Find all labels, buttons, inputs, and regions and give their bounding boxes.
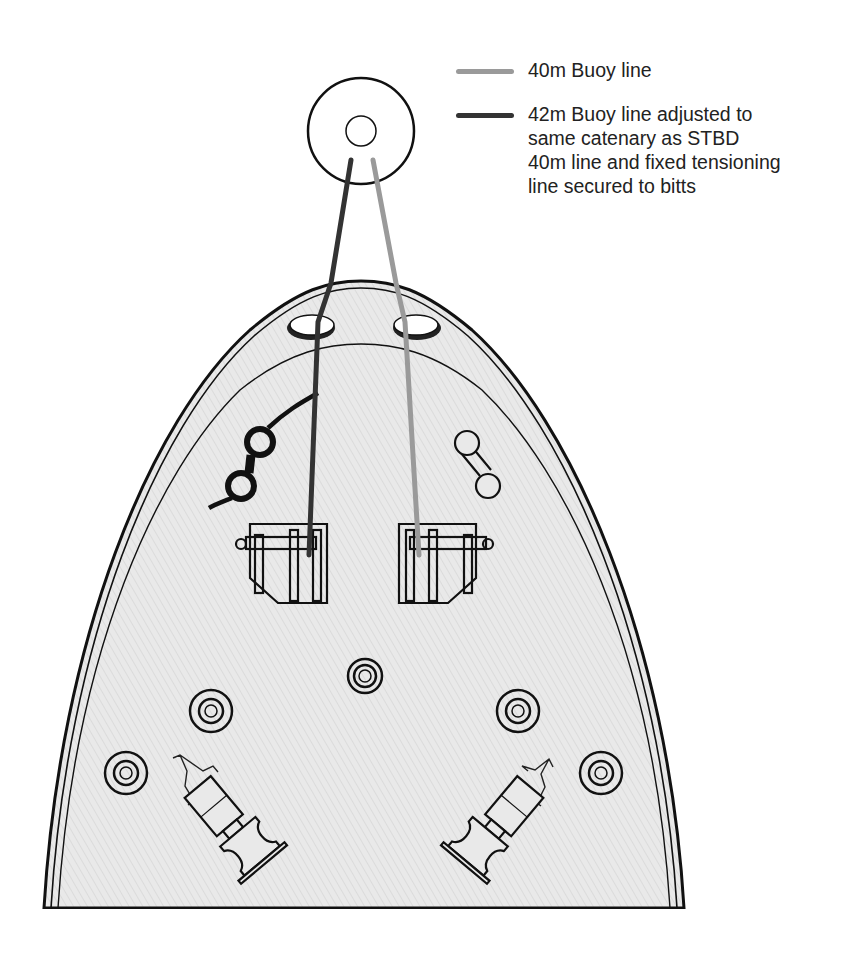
legend-line-3: 40m line and fixed tensioning [528,150,781,174]
legend-swatch-grey [456,69,514,74]
legend: 40m Buoy line 42m Buoy line adjusted to … [456,58,856,198]
buoy [308,78,414,184]
legend-item-40m: 40m Buoy line [456,58,856,82]
legend-label: 40m Buoy line [528,58,652,82]
hull [44,281,684,908]
legend-label: 42m Buoy line adjusted to same catenary … [528,102,781,198]
legend-item-42m: 42m Buoy line adjusted to same catenary … [456,102,856,198]
legend-swatch-dark [456,113,514,118]
legend-line-4: line secured to bitts [528,174,781,198]
legend-line-2: same catenary as STBD [528,126,781,150]
page-bottom [0,909,868,954]
stbd-fairlead [393,315,441,340]
legend-line-1: 42m Buoy line adjusted to [528,102,781,126]
port-fairlead [287,315,335,340]
